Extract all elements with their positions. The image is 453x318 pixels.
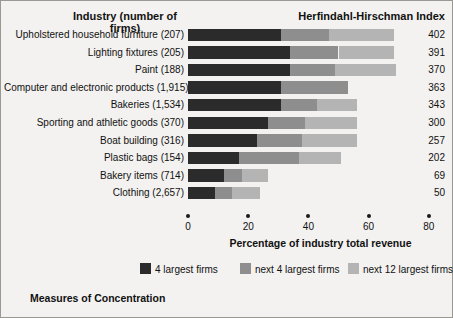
- bar-segment: [188, 152, 239, 165]
- bar-segment: [215, 187, 232, 200]
- bar-segment: [242, 169, 268, 182]
- legend-label: next 4 largest firms: [255, 264, 339, 275]
- row-label-industry: Plastic bags (154): [4, 151, 184, 164]
- bar-segment: [188, 46, 290, 59]
- bar-segment: [188, 169, 224, 182]
- legend-label: 4 largest firms: [155, 264, 218, 275]
- row-value-hhi: 257: [401, 134, 445, 147]
- x-axis-tick-label: 0: [173, 221, 203, 232]
- chart-row: Plastic bags (154)202: [0, 150, 453, 168]
- concentration-chart: Industry (number of firms) Herfindahl-Hi…: [0, 0, 453, 318]
- chart-row: Bakery items (714)69: [0, 168, 453, 186]
- x-axis: 020406080: [0, 214, 453, 238]
- x-axis-tick: [367, 214, 371, 218]
- x-axis-tick-label: 60: [354, 221, 384, 232]
- chart-row: Lighting fixtures (205)391: [0, 45, 453, 63]
- chart-caption: Measures of Concentration: [30, 292, 165, 304]
- legend-swatch: [348, 263, 359, 274]
- x-axis-tick-label: 80: [414, 221, 444, 232]
- stacked-bar: [188, 152, 342, 165]
- stacked-bar: [188, 29, 394, 42]
- row-label-industry: Paint (188): [4, 63, 184, 76]
- row-label-industry: Computer and electronic products (1,915): [4, 81, 184, 94]
- bar-segment: [290, 64, 335, 77]
- bar-segment: [335, 64, 395, 77]
- bar-segment: [188, 187, 215, 200]
- bar-segment: [290, 46, 338, 59]
- row-label-industry: Sporting and athletic goods (370): [4, 116, 184, 129]
- row-label-industry: Lighting fixtures (205): [4, 46, 184, 59]
- chart-legend: 4 largest firmsnext 4 largest firmsnext …: [140, 259, 440, 273]
- row-label-industry: Clothing (2,657): [4, 186, 184, 199]
- x-axis-tick: [427, 214, 431, 218]
- chart-row: Computer and electronic products (1,915)…: [0, 80, 453, 98]
- bar-segment: [239, 152, 299, 165]
- stacked-bar: [188, 99, 357, 112]
- row-label-industry: Upholstered household furniture (207): [4, 28, 184, 41]
- x-axis-tick: [306, 214, 310, 218]
- bar-segment: [188, 134, 257, 147]
- x-axis-tick: [186, 214, 190, 218]
- stacked-bar: [188, 169, 268, 182]
- bar-segment: [188, 29, 281, 42]
- stacked-bar: [188, 46, 394, 59]
- bar-segment: [268, 117, 306, 130]
- legend-item: 4 largest firms: [140, 259, 218, 271]
- bar-segment: [188, 117, 268, 130]
- stacked-bar: [188, 81, 348, 94]
- legend-swatch: [240, 263, 251, 274]
- row-value-hhi: 391: [401, 46, 445, 59]
- row-value-hhi: 363: [401, 81, 445, 94]
- chart-row: Boat building (316)257: [0, 133, 453, 151]
- stacked-bar: [188, 187, 260, 200]
- x-axis-tick-label: 20: [233, 221, 263, 232]
- row-label-industry: Bakery items (714): [4, 169, 184, 182]
- stacked-bar: [188, 134, 357, 147]
- bar-segment: [188, 64, 290, 77]
- bar-segment: [281, 29, 329, 42]
- row-value-hhi: 343: [401, 98, 445, 111]
- bar-segment: [339, 46, 395, 59]
- legend-item: next 12 largest firms: [348, 259, 453, 271]
- chart-row: Bakeries (1,534)343: [0, 97, 453, 115]
- bar-segment: [188, 99, 281, 112]
- chart-row: Clothing (2,657)50: [0, 185, 453, 203]
- bar-segment: [329, 29, 394, 42]
- x-axis-tick: [246, 214, 250, 218]
- row-value-hhi: 50: [401, 186, 445, 199]
- bar-segment: [317, 99, 356, 112]
- chart-row: Upholstered household furniture (207)402: [0, 27, 453, 45]
- bar-segment: [257, 134, 302, 147]
- bar-segment: [281, 81, 347, 94]
- row-label-industry: Boat building (316): [4, 134, 184, 147]
- legend-label: next 12 largest firms: [363, 264, 453, 275]
- legend-swatch: [140, 263, 151, 274]
- x-axis-tick-label: 40: [293, 221, 323, 232]
- row-value-hhi: 370: [401, 63, 445, 76]
- stacked-bar: [188, 117, 357, 130]
- bar-segment: [299, 152, 341, 165]
- chart-row: Sporting and athletic goods (370)300: [0, 115, 453, 133]
- column-header-industry: Industry (number of firms): [60, 10, 190, 24]
- row-value-hhi: 69: [401, 169, 445, 182]
- column-header-hhi: Herfindahl-Hirschman Index: [277, 10, 445, 24]
- bar-segment: [232, 187, 261, 200]
- row-value-hhi: 300: [401, 116, 445, 129]
- bar-segment: [224, 169, 242, 182]
- chart-row: Paint (188)370: [0, 62, 453, 80]
- bar-segment: [281, 99, 317, 112]
- row-label-industry: Bakeries (1,534): [4, 98, 184, 111]
- row-value-hhi: 402: [401, 28, 445, 41]
- bar-segment: [188, 81, 281, 94]
- bar-segment: [302, 134, 356, 147]
- stacked-bar: [188, 64, 396, 77]
- bar-segment: [305, 117, 356, 130]
- x-axis-title: Percentage of industry total revenue: [188, 237, 453, 249]
- row-value-hhi: 202: [401, 151, 445, 164]
- legend-item: next 4 largest firms: [240, 259, 339, 271]
